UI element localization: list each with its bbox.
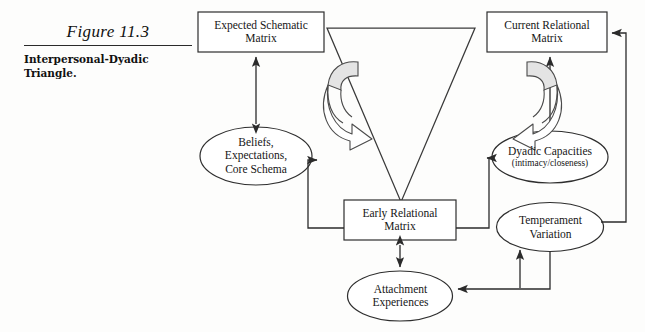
beliefs-ellipse: [200, 127, 312, 185]
diagram-canvas: [0, 0, 645, 332]
early-relational-matrix-box: [344, 200, 456, 240]
edge-temperament-to-current: [601, 33, 626, 222]
edge-temperament-to-attachment: [458, 252, 550, 289]
temperament-variation-ellipse: [497, 203, 604, 252]
edge-early-to-dyadic: [456, 158, 489, 228]
attachment-experiences-ellipse: [348, 271, 453, 321]
swirl-left-icon: [324, 62, 372, 150]
dyadic-capacities-ellipse: [492, 131, 608, 183]
edge-early-to-beliefs: [308, 160, 344, 228]
current-relational-matrix-box: [487, 12, 607, 52]
figure-page: Figure 11.3 Interpersonal-Dyadic Triangl…: [0, 0, 645, 332]
expected-schematic-matrix-box: [198, 12, 324, 52]
